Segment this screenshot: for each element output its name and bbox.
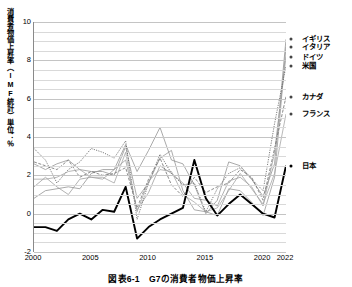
y-axis-tick-label: 6: [17, 95, 31, 103]
y-axis-tick-label: 10: [17, 18, 31, 26]
gridline: [34, 89, 286, 90]
series-endpoint-marker: [290, 113, 293, 116]
y-axis-tick-label: 4: [17, 133, 31, 141]
gridline: [34, 108, 286, 109]
series-line: [34, 160, 286, 239]
gridline: [34, 223, 286, 224]
gridline: [34, 70, 286, 71]
gridline: [34, 127, 286, 128]
y-axis-tick-label: 0: [17, 210, 31, 218]
figure-caption: 図表6-1 G7の消費者物価上昇率: [0, 272, 352, 284]
plot-area: [33, 22, 286, 252]
gridline: [34, 166, 286, 167]
gridline: [34, 147, 286, 148]
series-label-カナダ: カナダ: [302, 93, 323, 101]
gridline: [34, 242, 286, 243]
series-endpoint-marker: [290, 38, 293, 41]
x-axis-tick-label: 2010: [139, 254, 156, 262]
y-axis-title: 消費者物価上昇率（IMF統計）単位：％: [1, 8, 14, 238]
series-label-イタリア: イタリア: [302, 43, 330, 51]
y-axis-tick-label: 8: [17, 57, 31, 65]
x-axis-tick-label: 2005: [82, 254, 99, 262]
series-line: [34, 97, 286, 208]
series-end-labels: イギリスイタリアドイツ米国カナダフランス日本: [285, 0, 352, 260]
gridline: [34, 118, 286, 119]
x-axis-tick-label: 2020: [254, 254, 271, 262]
gridline: [34, 137, 286, 138]
x-axis-tick-labels: 200020052010201520202022: [33, 254, 285, 268]
gridline: [34, 204, 286, 205]
series-label-フランス: フランス: [302, 110, 330, 118]
series-label-日本: 日本: [302, 162, 316, 170]
gridline: [34, 22, 286, 23]
gridline: [34, 80, 286, 81]
gridline: [34, 195, 286, 196]
series-endpoint-marker: [290, 65, 293, 68]
series-endpoint-marker: [290, 55, 293, 58]
gridline: [34, 252, 286, 253]
x-axis-tick-label: 2015: [196, 254, 213, 262]
series-label-ドイツ: ドイツ: [302, 53, 323, 61]
y-axis-tick-labels: 1086420-2: [14, 0, 31, 287]
gridline: [34, 99, 286, 100]
series-endpoint-marker: [290, 164, 293, 167]
gridline: [34, 32, 286, 33]
series-label-米国: 米国: [302, 62, 316, 70]
gridline: [34, 41, 286, 42]
chart-figure: 消費者物価上昇率（IMF統計）単位：％ 1086420-2 2000200520…: [0, 0, 352, 287]
series-endpoint-marker: [290, 45, 293, 48]
gridline: [34, 175, 286, 176]
series-endpoint-marker: [290, 95, 293, 98]
y-axis-tick-label: 2: [17, 172, 31, 180]
gridline: [34, 214, 286, 215]
gridline: [34, 185, 286, 186]
gridline: [34, 51, 286, 52]
x-axis-tick-label: 2000: [25, 254, 42, 262]
gridline: [34, 60, 286, 61]
gridline: [34, 233, 286, 234]
gridline: [34, 156, 286, 157]
